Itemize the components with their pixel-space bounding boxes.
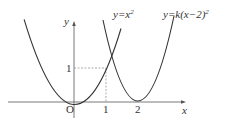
- curve-y-equals-x-squared: [24, 19, 121, 104]
- curve-label-1-exponent: 2: [130, 8, 134, 16]
- curve-label-2: y=k(x−2)2: [163, 9, 209, 20]
- curve-label-2-exponent: 2: [205, 8, 209, 16]
- y-tick-1: 1: [66, 63, 72, 74]
- x-tick-1: 1: [103, 104, 109, 115]
- y-axis-label: y: [64, 16, 69, 27]
- curve-y-equals-k-x-minus-2-squared: [103, 16, 174, 101]
- y-axis-arrow-icon: [72, 21, 76, 26]
- x-axis-label: x: [182, 105, 187, 116]
- origin-label: O: [66, 104, 74, 115]
- x-tick-2: 2: [135, 104, 141, 115]
- curve-label-1-text: y=x: [113, 8, 130, 20]
- curve-label-1: y=x2: [113, 9, 134, 20]
- curve-label-2-text: y=k(x−2): [163, 8, 205, 20]
